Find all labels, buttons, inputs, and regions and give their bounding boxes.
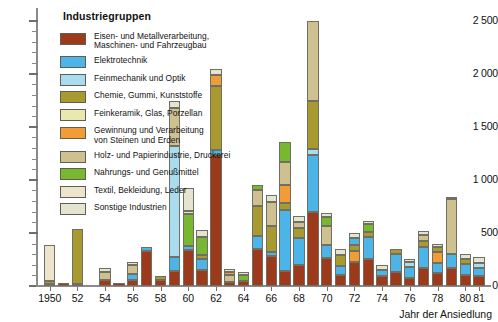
- bar-segment: [473, 268, 484, 276]
- bar-segment: [363, 237, 374, 259]
- bar-segment: [44, 281, 55, 284]
- bar-segment: [307, 155, 318, 211]
- legend-item-label: Holz- und Papierindustrie, Druckerei: [94, 150, 230, 160]
- bar-1963: [224, 269, 235, 287]
- bar-segment: [293, 222, 304, 228]
- bar-1975: [390, 249, 401, 286]
- legend-item-list: Eisen- und Metallverarbeitung,Maschinen-…: [60, 31, 260, 215]
- bar-segment: [446, 199, 457, 254]
- bar-1967: [279, 112, 290, 286]
- bar-segment: [238, 275, 249, 281]
- bar-segment: [376, 276, 387, 286]
- legend-swatch: [60, 151, 86, 163]
- bar-segment: [224, 282, 235, 286]
- bar-segment: [279, 162, 290, 185]
- legend-item: Sonstige Industrien: [60, 202, 260, 215]
- bar-segment: [99, 280, 110, 286]
- bar-segment: [432, 263, 443, 274]
- bar-segment: [404, 278, 415, 286]
- legend-item: Nahrungs- und Genußmittel: [60, 167, 260, 180]
- bar-segment: [127, 265, 138, 274]
- bar-1955: [113, 283, 124, 286]
- bar-1968: [293, 216, 304, 286]
- bar-segment: [127, 274, 138, 279]
- bar-1977: [418, 231, 429, 286]
- bar-1964: [238, 272, 249, 286]
- bar-segment: [196, 230, 207, 237]
- legend: Industriegruppen Eisen- und Metallverarb…: [60, 10, 260, 220]
- legend-item-label: Feinkeramik, Glas, Porzellan: [94, 108, 202, 118]
- legend-item-label: Eisen- und Metallverarbeitung,Maschinen-…: [94, 31, 209, 51]
- bar-segment: [321, 213, 332, 217]
- bar-segment: [321, 226, 332, 245]
- bar-segment: [266, 226, 277, 253]
- bar-segment: [279, 210, 290, 272]
- bar-segment: [432, 247, 443, 252]
- bar-segment: [196, 237, 207, 255]
- bar-segment: [349, 251, 360, 262]
- legend-item: Textil, Bekleidung, Leder: [60, 185, 260, 198]
- bar-segment: [349, 262, 360, 286]
- bar-1976: [404, 259, 415, 286]
- bar-segment: [335, 275, 346, 286]
- bar-segment: [390, 249, 401, 254]
- bar-1957: [141, 247, 152, 286]
- bar-segment: [307, 149, 318, 155]
- legend-item-label: Chemie, Gummi, Kunststoffe: [94, 90, 202, 100]
- bar-segment: [404, 262, 415, 267]
- bar-segment: [224, 272, 235, 275]
- legend-swatch: [60, 33, 86, 45]
- bar-segment: [72, 229, 83, 284]
- bar-segment: [196, 270, 207, 286]
- bar-segment: [58, 283, 69, 286]
- bar-segment: [224, 269, 235, 272]
- bar-segment: [349, 245, 360, 251]
- bar-segment: [460, 264, 471, 276]
- bar-1950: [44, 245, 55, 286]
- legend-swatch: [60, 203, 86, 215]
- legend-item-label: Elektrotechnik: [94, 55, 147, 65]
- bar-segment: [349, 238, 360, 244]
- legend-item: Gewinnung und Verarbeitungvon Steinen un…: [60, 125, 260, 145]
- bar-segment: [293, 228, 304, 238]
- bar-segment: [183, 250, 194, 286]
- bar-segment: [224, 275, 235, 282]
- bar-segment: [363, 224, 374, 232]
- bar-1954: [99, 268, 110, 286]
- legend-swatch: [60, 74, 86, 86]
- bar-segment: [252, 249, 263, 286]
- bar-1970: [321, 213, 332, 286]
- bar-segment: [72, 284, 83, 286]
- bar-segment: [376, 270, 387, 276]
- legend-title: Industriegruppen: [63, 10, 260, 22]
- bar-segment: [141, 251, 152, 286]
- bar-segment: [446, 254, 457, 268]
- legend-item: Chemie, Gummi, Kunststoffe: [60, 90, 260, 103]
- bar-segment: [460, 259, 471, 263]
- legend-swatch: [60, 127, 86, 139]
- bar-segment: [404, 259, 415, 262]
- bar-segment: [307, 21, 318, 102]
- bar-segment: [363, 221, 374, 224]
- bar-segment: [44, 245, 55, 281]
- bar-segment: [141, 247, 152, 251]
- bar-segment: [418, 235, 429, 241]
- bar-segment: [279, 203, 290, 209]
- bar-1973: [363, 221, 374, 286]
- bar-segment: [321, 245, 332, 259]
- bar-1981: [473, 257, 484, 286]
- bar-segment: [432, 252, 443, 263]
- bar-1979: [446, 197, 457, 286]
- bar-segment: [376, 265, 387, 270]
- bar-segment: [307, 101, 318, 149]
- bar-segment: [279, 185, 290, 203]
- bar-segment: [238, 272, 249, 275]
- bar-segment: [349, 233, 360, 238]
- bar-segment: [293, 238, 304, 265]
- bar-segment: [169, 271, 180, 286]
- bar-1972: [349, 233, 360, 286]
- bar-segment: [155, 280, 166, 286]
- bar-1956: [127, 262, 138, 286]
- legend-swatch: [60, 168, 86, 180]
- bar-1961: [196, 230, 207, 286]
